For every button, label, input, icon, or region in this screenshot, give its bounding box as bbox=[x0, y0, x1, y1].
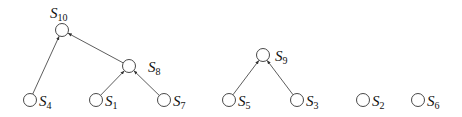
node-circle bbox=[412, 94, 425, 107]
node-circle bbox=[56, 24, 69, 37]
edge-s8-to-s10 bbox=[68, 33, 123, 63]
edge-s5-to-s9 bbox=[233, 61, 259, 95]
node-circle bbox=[24, 94, 37, 107]
edges-group bbox=[33, 33, 293, 95]
nodes-group: S10S4S8S1S7S9S5S3S2S6 bbox=[24, 5, 440, 111]
node-s10: S10 bbox=[50, 5, 69, 37]
node-circle bbox=[158, 94, 171, 107]
forest-diagram: S10S4S8S1S7S9S5S3S2S6 bbox=[0, 0, 462, 117]
node-s1: S1 bbox=[90, 93, 118, 111]
node-label: S4 bbox=[39, 93, 52, 111]
node-circle bbox=[223, 94, 236, 107]
node-s4: S4 bbox=[24, 93, 52, 111]
node-label: S2 bbox=[372, 93, 385, 111]
node-label: S1 bbox=[105, 93, 118, 111]
node-s2: S2 bbox=[357, 93, 385, 111]
node-label: S3 bbox=[306, 93, 319, 111]
node-label: S10 bbox=[50, 5, 68, 23]
node-s9: S9 bbox=[257, 48, 288, 66]
node-s8: S8 bbox=[123, 59, 161, 77]
node-label: S9 bbox=[275, 48, 288, 66]
node-s3: S3 bbox=[291, 93, 319, 111]
edge-s3-to-s9 bbox=[267, 61, 293, 95]
node-circle bbox=[257, 49, 270, 62]
node-circle bbox=[357, 94, 370, 107]
node-circle bbox=[90, 94, 103, 107]
node-circle bbox=[123, 60, 136, 73]
node-label: S5 bbox=[238, 93, 251, 111]
node-s5: S5 bbox=[223, 93, 251, 111]
node-s7: S7 bbox=[158, 93, 186, 111]
node-s6: S6 bbox=[412, 93, 440, 111]
node-label: S7 bbox=[173, 93, 186, 111]
node-label: S8 bbox=[148, 59, 161, 77]
edge-s1-to-s8 bbox=[101, 71, 125, 95]
node-circle bbox=[291, 94, 304, 107]
edge-s4-to-s10 bbox=[33, 36, 59, 94]
node-label: S6 bbox=[427, 93, 440, 111]
